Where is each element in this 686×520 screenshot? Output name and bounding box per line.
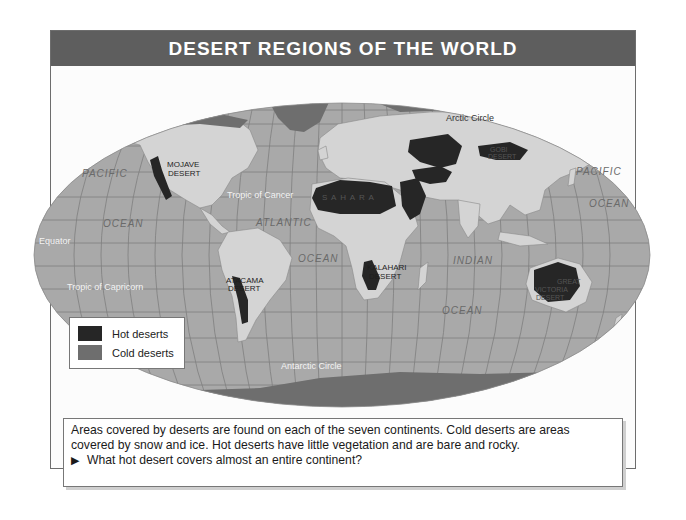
- great-victoria-label: GREAT: [557, 278, 581, 285]
- question-text: What hot desert covers almost an entire …: [87, 453, 362, 468]
- ocean-label: INDIAN: [453, 255, 493, 266]
- caption-box: Areas covered by deserts are found on ea…: [63, 418, 623, 487]
- legend-item-hot-deserts: Hot deserts: [78, 326, 168, 341]
- ocean-label: ATLANTIC: [255, 217, 312, 228]
- mojave-label: MOJAVE: [167, 160, 199, 169]
- antarctic-circle-label: Antarctic Circle: [281, 361, 342, 371]
- gobi-label-2: DESERT: [488, 153, 517, 160]
- sahara-label: S A H A R A: [322, 193, 375, 202]
- atacama-label-2: DESERT: [228, 284, 260, 293]
- great-victoria-label-2: VICTORIA: [535, 286, 568, 293]
- ocean-label: OCEAN: [103, 218, 144, 229]
- hot-desert-swatch: [78, 326, 102, 341]
- legend-label: Cold deserts: [112, 347, 174, 359]
- ocean-label: OCEAN: [298, 253, 339, 264]
- map-legend: Hot deserts Cold deserts: [69, 317, 185, 369]
- ocean-label: OCEAN: [442, 305, 483, 316]
- gobi-label: GOBI: [490, 146, 508, 153]
- equator-label: Equator: [39, 236, 71, 246]
- legend-label: Hot deserts: [112, 328, 168, 340]
- kalahari-label: KALAHARI: [367, 263, 407, 272]
- mojave-label-2: DESERT: [168, 169, 200, 178]
- ocean-label: OCEAN: [589, 198, 630, 209]
- triangle-bullet-icon: ▶: [71, 453, 79, 468]
- antarctica-ice: [40, 372, 650, 410]
- cold-desert-swatch: [78, 345, 102, 360]
- legend-item-cold-deserts: Cold deserts: [78, 345, 174, 360]
- tropic-of-cancer-label: Tropic of Cancer: [227, 190, 293, 200]
- kalahari-label-2: DESERT: [369, 272, 401, 281]
- caption-text: Areas covered by deserts are found on ea…: [71, 423, 615, 453]
- arctic-circle-label: Arctic Circle: [446, 113, 494, 123]
- question: ▶ What hot desert covers almost an entir…: [71, 453, 615, 468]
- ocean-label: PACIFIC: [576, 166, 622, 177]
- tropic-of-capricorn-label: Tropic of Capricorn: [67, 282, 143, 292]
- great-victoria-label-3: DESERT: [536, 294, 565, 301]
- ocean-label: PACIFIC: [82, 168, 128, 179]
